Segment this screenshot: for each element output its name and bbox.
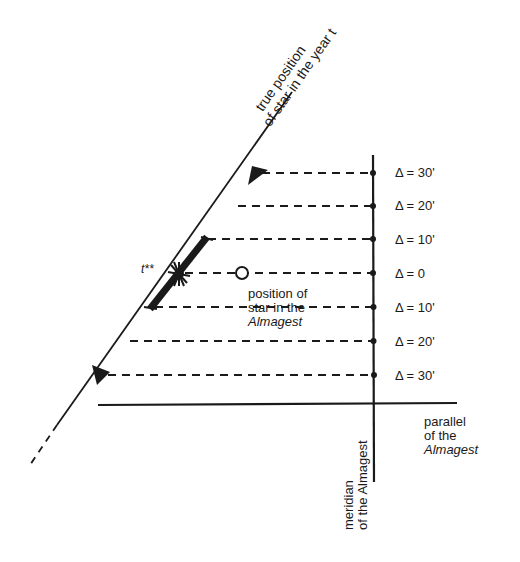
delta-label-minus30: Δ = 30' [395, 369, 435, 383]
almagest-position-label-line1: position of [248, 287, 307, 301]
almagest-position-marker [236, 267, 248, 279]
delta-label-plus20: Δ = 20' [395, 199, 435, 213]
star-burst-core [174, 269, 184, 279]
almagest-position-label-line2: star in the [248, 301, 307, 315]
delta-label-zero: Δ = 0 [395, 267, 425, 281]
parallel-line [98, 403, 457, 405]
almagest-position-label-line3: Almagest [248, 315, 307, 329]
true-position-line [57, 92, 292, 425]
parallel-label-line2: of the [424, 429, 478, 443]
meridian-label-line2: of the Almagest [356, 440, 370, 530]
meridian-label-line1: meridian [342, 440, 356, 530]
meridian-label: meridian of the Almagest [342, 440, 370, 530]
arrow-down-icon [92, 365, 110, 385]
diagram-canvas [0, 0, 520, 562]
delta-label-minus10: Δ = 10' [395, 301, 435, 315]
true-position-line-dashed [30, 425, 57, 465]
parallel-label-line1: parallel [424, 415, 478, 429]
t-star-label: t** [141, 262, 154, 276]
delta-label-plus30: Δ = 30' [395, 166, 435, 180]
meridian-label-line2-text: of the Almagest [355, 440, 370, 530]
arrow-up-icon [248, 166, 268, 185]
parallel-label: parallel of the Almagest [424, 415, 478, 457]
delta-label-minus20: Δ = 20' [395, 335, 435, 349]
parallel-label-line3: Almagest [424, 443, 478, 457]
almagest-position-label: position of star in the Almagest [248, 287, 307, 329]
delta-label-plus10: Δ = 10' [395, 233, 435, 247]
